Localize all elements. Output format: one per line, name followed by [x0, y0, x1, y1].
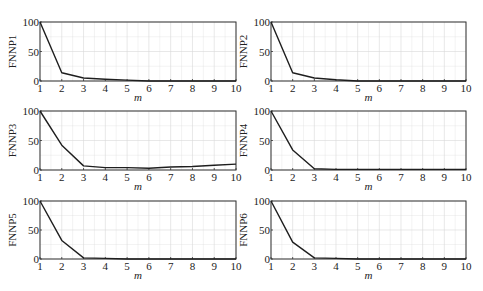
x-tick-label: 8 — [190, 171, 196, 183]
subplot-fnnp6: 12345678910050100mFNNP6 — [237, 195, 472, 281]
y-tick-label: 50 — [259, 46, 271, 58]
y-tick-label: 0 — [265, 164, 271, 176]
subplot-fnnp5: 12345678910050100mFNNP5 — [6, 195, 242, 281]
x-tick-label: 10 — [231, 82, 243, 94]
x-tick-label: 9 — [211, 171, 217, 183]
x-axis-label: m — [365, 91, 373, 103]
x-tick-label: 6 — [377, 82, 383, 94]
subplot-fnnp2: 12345678910050100mFNNP2 — [237, 16, 472, 103]
x-tick-label: 2 — [290, 171, 296, 183]
x-tick-label: 3 — [81, 82, 87, 94]
y-tick-label: 50 — [28, 224, 40, 236]
x-tick-label: 6 — [146, 82, 152, 94]
x-tick-label: 10 — [461, 82, 473, 94]
x-tick-label: 3 — [312, 171, 318, 183]
x-tick-label: 3 — [312, 260, 318, 272]
figure: 12345678910050100mFNNP1 1234567891005010… — [0, 0, 483, 291]
x-axis-label: m — [134, 91, 142, 103]
y-axis-label: FNNP3 — [6, 123, 18, 157]
y-tick-label: 0 — [34, 75, 40, 87]
x-tick-label: 4 — [333, 82, 339, 94]
grid — [40, 111, 236, 170]
x-tick-label: 2 — [290, 260, 296, 272]
x-tick-label: 10 — [231, 260, 243, 272]
x-tick-label: 9 — [442, 260, 448, 272]
y-tick-label: 50 — [28, 135, 40, 147]
y-axis-label: FNNP5 — [6, 213, 18, 247]
y-axis-label: FNNP1 — [6, 35, 18, 69]
x-tick-label: 9 — [442, 171, 448, 183]
x-tick-label: 2 — [59, 82, 65, 94]
x-tick-label: 9 — [211, 82, 217, 94]
x-tick-label: 5 — [355, 82, 361, 94]
x-tick-label: 2 — [59, 171, 65, 183]
y-axis-label: FNNP4 — [237, 123, 249, 157]
subplot-fnnp3: 12345678910050100mFNNP3 — [6, 105, 242, 192]
x-tick-label: 3 — [312, 82, 318, 94]
grid — [271, 111, 466, 170]
y-tick-label: 50 — [259, 135, 271, 147]
y-tick-label: 0 — [265, 75, 271, 87]
y-tick-label: 100 — [254, 195, 271, 207]
x-tick-label: 5 — [124, 260, 130, 272]
x-tick-label: 8 — [190, 82, 196, 94]
x-axis-label: m — [134, 180, 142, 192]
x-tick-label: 8 — [420, 82, 426, 94]
x-tick-label: 9 — [442, 82, 448, 94]
x-tick-label: 5 — [124, 82, 130, 94]
x-tick-label: 3 — [81, 260, 87, 272]
x-tick-label: 5 — [355, 260, 361, 272]
grid — [271, 201, 466, 259]
x-tick-label: 7 — [168, 171, 174, 183]
x-tick-label: 7 — [398, 260, 404, 272]
x-tick-label: 6 — [377, 171, 383, 183]
x-tick-label: 6 — [377, 260, 383, 272]
x-tick-label: 5 — [124, 171, 130, 183]
x-tick-label: 6 — [146, 171, 152, 183]
x-axis-label: m — [134, 269, 142, 281]
subplot-fnnp4: 12345678910050100mFNNP4 — [237, 105, 472, 192]
x-tick-label: 5 — [355, 171, 361, 183]
x-tick-label: 4 — [103, 260, 109, 272]
x-tick-label: 3 — [81, 171, 87, 183]
x-tick-label: 7 — [168, 82, 174, 94]
grid — [40, 22, 236, 81]
grid — [40, 201, 236, 259]
x-tick-label: 2 — [290, 82, 296, 94]
x-tick-label: 7 — [398, 82, 404, 94]
y-tick-label: 0 — [34, 164, 40, 176]
grid — [271, 22, 466, 81]
y-axis-label: FNNP6 — [237, 213, 249, 247]
y-tick-label: 100 — [23, 195, 40, 207]
x-tick-label: 10 — [231, 171, 243, 183]
x-tick-label: 7 — [168, 260, 174, 272]
y-tick-label: 0 — [34, 253, 40, 265]
x-tick-label: 6 — [146, 260, 152, 272]
subplot-fnnp1: 12345678910050100mFNNP1 — [6, 16, 242, 103]
x-tick-label: 8 — [190, 260, 196, 272]
x-tick-label: 2 — [59, 260, 65, 272]
x-tick-label: 8 — [420, 260, 426, 272]
x-tick-label: 4 — [333, 260, 339, 272]
x-tick-label: 9 — [211, 260, 217, 272]
y-tick-label: 100 — [23, 105, 40, 117]
x-tick-label: 4 — [333, 171, 339, 183]
x-tick-label: 7 — [398, 171, 404, 183]
x-tick-label: 10 — [461, 260, 473, 272]
y-axis-label: FNNP2 — [237, 35, 249, 69]
y-tick-label: 0 — [265, 253, 271, 265]
x-tick-label: 4 — [103, 82, 109, 94]
x-axis-label: m — [365, 180, 373, 192]
y-tick-label: 100 — [254, 105, 271, 117]
x-tick-label: 10 — [461, 171, 473, 183]
x-tick-label: 8 — [420, 171, 426, 183]
y-tick-label: 50 — [28, 46, 40, 58]
y-tick-label: 100 — [23, 16, 40, 28]
y-tick-label: 50 — [259, 224, 271, 236]
x-tick-label: 4 — [103, 171, 109, 183]
x-axis-label: m — [365, 269, 373, 281]
y-tick-label: 100 — [254, 16, 271, 28]
